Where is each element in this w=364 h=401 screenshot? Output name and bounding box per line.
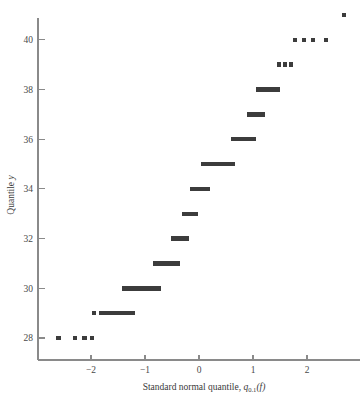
data-point-run (190, 187, 211, 191)
y-tick-label: 38 (24, 85, 34, 95)
x-axis-title: Standard normal quantile, q0.1(f) (143, 382, 266, 393)
y-tick-label: 36 (24, 135, 34, 145)
data-point (324, 38, 328, 42)
data-point (92, 311, 96, 315)
quantile-quantile-plot: −2−1012 28303234363840 Standard normal q… (0, 0, 364, 401)
x-tick-label: 0 (197, 365, 202, 375)
y-axis-title-variable: y (6, 175, 16, 181)
x-axis-title-lead: Standard normal quantile, (143, 382, 244, 392)
data-point-run (182, 212, 198, 216)
data-point (90, 336, 94, 340)
data-point-run (201, 162, 236, 166)
data-point (283, 62, 287, 66)
x-tick-label: −2 (86, 365, 96, 375)
y-tick-label: 32 (24, 234, 34, 244)
x-axis-title-subscript: 0.1 (248, 386, 256, 393)
y-tick-label: 34 (24, 184, 34, 194)
data-point (56, 336, 60, 340)
y-tick-label: 28 (24, 333, 34, 343)
data-point (302, 38, 306, 42)
data-point (293, 38, 297, 42)
y-axis-ticks: 28303234363840 (24, 35, 45, 343)
plot-canvas: −2−1012 28303234363840 Standard normal q… (0, 0, 364, 401)
data-point (342, 13, 346, 17)
data-point (73, 336, 77, 340)
x-axis-ticks: −2−1012 (86, 355, 310, 375)
data-point (289, 62, 293, 66)
data-point-run (171, 236, 189, 240)
y-tick-label: 40 (24, 35, 34, 45)
data-point-run (231, 137, 256, 141)
x-tick-label: 1 (251, 365, 256, 375)
data-marks-layer (56, 13, 346, 340)
data-point-run (153, 261, 180, 265)
data-point (311, 38, 315, 42)
data-point (82, 336, 86, 340)
data-point-run (247, 112, 265, 116)
y-axis-title: Quantile y (6, 175, 16, 215)
data-point-run (122, 286, 161, 290)
data-point (277, 62, 281, 66)
x-tick-label: 2 (305, 365, 310, 375)
x-tick-label: −1 (140, 365, 150, 375)
y-axis-title-lead: Quantile (6, 180, 16, 215)
y-tick-label: 30 (24, 284, 34, 294)
x-axis-title-argument: (f) (256, 382, 265, 393)
data-point-run (99, 311, 135, 315)
data-point-run (256, 87, 280, 91)
